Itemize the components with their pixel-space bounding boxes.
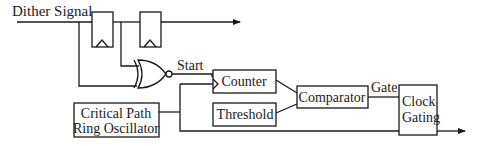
oscillator-label-line2: Ring Oscillator (73, 121, 159, 136)
comparator-block: Comparator (297, 86, 368, 108)
clock-gating-block: Clock Gating (399, 85, 440, 135)
clock-gating-label-line1: Clock (402, 94, 435, 109)
threshold-block: Threshold (213, 103, 276, 126)
counter-block: Counter (213, 70, 276, 93)
ff1-to-xnor-wire (121, 22, 139, 66)
ring-oscillator-block: Critical Path Ring Oscillator (73, 103, 159, 137)
inverter-bubble-icon (166, 71, 172, 77)
flip-flop-2 (140, 12, 161, 47)
start-wire (172, 74, 212, 77)
dither-clock-gating-diagram: Dither Signal Start Counter Threshold (0, 0, 477, 146)
counter-to-comparator-wire (276, 80, 297, 93)
dither-signal-label: Dither Signal (12, 3, 92, 19)
threshold-to-comparator-wire (276, 104, 297, 113)
comparator-label: Comparator (299, 90, 366, 105)
threshold-label: Threshold (217, 107, 274, 122)
xnor-gate (134, 60, 172, 88)
clock-gating-label-line2: Gating (402, 110, 440, 125)
flip-flop-1 (92, 12, 113, 47)
gate-label: Gate (371, 80, 397, 95)
counter-label: Counter (221, 74, 266, 89)
oscillator-label-line1: Critical Path (81, 106, 151, 121)
start-label: Start (177, 58, 204, 73)
